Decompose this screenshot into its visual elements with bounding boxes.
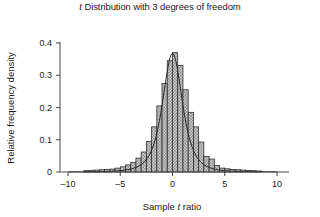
y-tick-label: 0.4	[39, 38, 52, 48]
plot-area: –10–50510 00.10.20.30.4 Sample t ratio R…	[0, 0, 320, 217]
histogram-bar	[157, 106, 162, 172]
histogram-bar	[167, 61, 172, 172]
histogram-bar	[199, 142, 204, 172]
x-axis-ticks: –10–50510	[60, 172, 282, 189]
x-tick-label: –5	[115, 179, 125, 189]
x-tick-label: 10	[272, 179, 282, 189]
histogram-bar	[204, 157, 209, 172]
histogram-bar	[125, 165, 130, 172]
x-tick-label: –10	[60, 179, 75, 189]
y-tick-label: 0.2	[39, 103, 52, 113]
x-tick-label: 0	[170, 179, 175, 189]
histogram-bar	[131, 162, 136, 172]
histogram-bar	[162, 83, 167, 172]
y-tick-label: 0	[47, 167, 52, 177]
y-tick-label: 0.1	[39, 135, 52, 145]
histogram-bar	[120, 167, 125, 172]
y-axis-ticks: 00.10.20.30.4	[39, 38, 60, 177]
y-axis-title: Relative frequency density	[5, 52, 16, 164]
x-axis-title-suffix: ratio	[180, 201, 201, 212]
x-axis-title-prefix: Sample	[143, 201, 178, 212]
x-axis-title: Sample t ratio	[143, 201, 202, 212]
histogram-bars	[84, 53, 262, 172]
histogram-bar	[178, 66, 183, 172]
histogram-bar	[193, 127, 198, 172]
histogram-bar	[173, 53, 178, 172]
y-tick-label: 0.3	[39, 70, 52, 80]
histogram-bar	[146, 141, 151, 172]
chart-figure: t Distribution with 3 degrees of freedom…	[0, 0, 320, 217]
x-tick-label: 5	[222, 179, 227, 189]
histogram-bar	[209, 159, 214, 172]
